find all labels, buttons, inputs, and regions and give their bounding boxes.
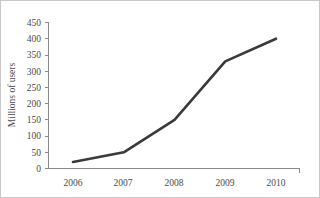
chart-container: 450 400 350 300 250 200 150 100 50 0 Mil…: [0, 0, 320, 198]
y-tick-label-0: 0: [36, 164, 41, 174]
x-tick-label-2008: 2008: [165, 178, 184, 188]
y-tick-label-350: 350: [27, 50, 42, 60]
x-tick-label-2006: 2006: [64, 178, 83, 188]
y-tick-label-50: 50: [32, 148, 42, 158]
y-tick-label-150: 150: [27, 115, 42, 125]
x-tick-label-2009: 2009: [216, 178, 235, 188]
y-tick-marks: [45, 23, 49, 169]
y-tick-label-300: 300: [27, 67, 42, 77]
y-tick-label-200: 200: [27, 99, 42, 109]
y-axis-title: Millions of users: [7, 63, 17, 128]
x-tick-label-2007: 2007: [114, 178, 133, 188]
x-tick-label-2010: 2010: [267, 178, 286, 188]
y-tick-label-450: 450: [27, 18, 42, 28]
y-tick-label-400: 400: [27, 34, 42, 44]
y-tick-label-250: 250: [27, 83, 42, 93]
y-tick-label-100: 100: [27, 131, 42, 141]
data-series-line: [73, 39, 276, 162]
line-chart: 450 400 350 300 250 200 150 100 50 0 Mil…: [1, 1, 320, 198]
